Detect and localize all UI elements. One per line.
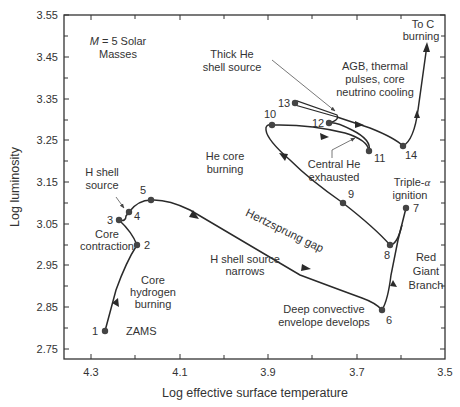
- y-tick-label: 2.95: [37, 259, 58, 271]
- rgb-label: Giant: [413, 265, 439, 277]
- mass-annotation: M = 5 Solar: [90, 35, 147, 47]
- y-tick-label: 2.85: [37, 301, 58, 313]
- point-12: [326, 120, 332, 126]
- point-label-4: 4: [134, 210, 140, 222]
- y-tick-label: 3.45: [37, 51, 58, 63]
- central-he-label: Central He: [308, 158, 361, 170]
- h-shell-narrows-label: narrows: [225, 265, 265, 277]
- y-tick-labels: 3.55 3.45 3.35 3.25 3.15 3.05 2.95 2.85 …: [37, 9, 58, 355]
- he-core-label: burning: [207, 163, 244, 175]
- core-h-label: Core: [141, 274, 165, 286]
- point-13: [292, 100, 298, 106]
- x-tick-label: 3.9: [260, 366, 275, 378]
- thick-he-label: shell source: [203, 61, 262, 73]
- to-c-burning-label: To C: [412, 18, 435, 30]
- x-tick-label: 4.1: [172, 366, 187, 378]
- x-tick-label: 3.5: [437, 366, 452, 378]
- agb-label: neutrino cooling: [336, 86, 414, 98]
- point-label-6: 6: [386, 314, 392, 326]
- point-label-1: 1: [92, 325, 98, 337]
- point-label-13: 13: [278, 97, 290, 109]
- point-5: [148, 197, 154, 203]
- point-9: [340, 200, 346, 206]
- core-h-label: hydrogen: [130, 286, 176, 298]
- point-label-11: 11: [374, 152, 385, 164]
- core-contraction-label: contraction: [80, 240, 134, 252]
- y-tick-label: 3.25: [37, 134, 58, 146]
- central-he-label: exhausted: [309, 171, 360, 183]
- x-tick-labels: 4.3 4.1 3.9 3.7 3.5: [83, 366, 452, 378]
- agb-label: pulses, core: [345, 73, 404, 85]
- point-label-8: 8: [384, 249, 390, 261]
- point-1: [102, 328, 108, 334]
- y-tick-label: 2.75: [37, 343, 58, 355]
- point-label-2: 2: [144, 239, 150, 251]
- x-tick-label: 3.7: [349, 366, 364, 378]
- triple-alpha-label: ignition: [393, 189, 428, 201]
- point-7: [403, 205, 409, 211]
- he-core-label: He core: [206, 150, 245, 162]
- h-shell-narrows-label: H shell source: [210, 253, 280, 265]
- y-tick-label: 3.05: [37, 218, 58, 230]
- zams-label: ZAMS: [126, 325, 157, 337]
- x-tick-label: 4.3: [83, 366, 98, 378]
- agb-label: AGB, thermal: [342, 60, 408, 72]
- core-h-label: burning: [135, 298, 172, 310]
- y-tick-label: 3.15: [37, 176, 58, 188]
- x-axis-title: Log effective surface temperature: [162, 386, 348, 400]
- triple-alpha-label: Triple-α: [394, 176, 431, 188]
- point-label-7: 7: [413, 202, 419, 214]
- hertzsprung-gap-label: Hertzsprung gap: [244, 206, 326, 254]
- point-label-12: 12: [312, 117, 324, 129]
- point-2: [134, 242, 140, 248]
- point-label-9: 9: [348, 188, 354, 200]
- deep-convective-label: envelope develops: [278, 316, 370, 328]
- to-c-burning-label: burning: [403, 30, 440, 42]
- y-axis-title: Log luminosity: [8, 146, 22, 227]
- point-4: [126, 209, 132, 215]
- y-tick-label: 3.35: [37, 93, 58, 105]
- h-shell-label: H shell: [85, 166, 119, 178]
- point-label-5: 5: [140, 184, 146, 196]
- point-10: [269, 122, 275, 128]
- hr-diagram-chart: 3.55 3.45 3.35 3.25 3.15 3.05 2.95 2.85 …: [0, 0, 460, 407]
- rgb-label: Branch: [409, 279, 444, 291]
- deep-convective-label: Deep convective: [283, 303, 364, 315]
- point-6: [379, 307, 385, 313]
- point-label-10: 10: [264, 108, 276, 120]
- point-8: [387, 242, 393, 248]
- point-11: [366, 148, 372, 154]
- y-tick-label: 3.55: [37, 9, 58, 21]
- point-3: [116, 217, 122, 223]
- mass-annotation-line2: Masses: [99, 48, 137, 60]
- rgb-label: Red: [416, 251, 436, 263]
- h-shell-label: source: [85, 179, 118, 191]
- thick-he-label: Thick He: [210, 48, 253, 60]
- point-label-3: 3: [107, 214, 113, 226]
- core-contraction-label: Core: [95, 228, 119, 240]
- point-label-14: 14: [405, 149, 417, 161]
